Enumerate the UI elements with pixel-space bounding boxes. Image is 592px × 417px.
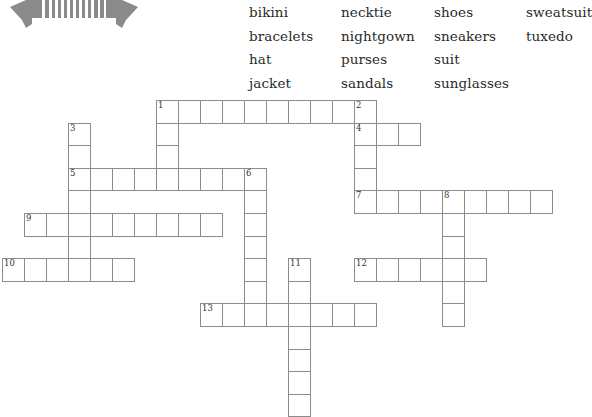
cell-letter-input[interactable]	[113, 214, 134, 236]
crossword-cell[interactable]	[288, 349, 311, 373]
cell-letter-input[interactable]	[179, 101, 200, 123]
cell-letter-input[interactable]	[245, 191, 266, 213]
cell-letter-input[interactable]	[69, 124, 90, 146]
crossword-cell[interactable]	[354, 303, 377, 327]
cell-letter-input[interactable]	[443, 282, 464, 304]
cell-letter-input[interactable]	[355, 146, 376, 168]
crossword-cell[interactable]	[222, 303, 245, 327]
cell-letter-input[interactable]	[377, 124, 398, 146]
crossword-cell[interactable]	[442, 236, 465, 260]
cell-letter-input[interactable]	[289, 304, 310, 326]
crossword-cell[interactable]	[244, 100, 267, 124]
cell-letter-input[interactable]	[223, 304, 244, 326]
crossword-cell[interactable]: 4	[354, 123, 377, 147]
cell-letter-input[interactable]	[157, 214, 178, 236]
crossword-cell[interactable]	[200, 213, 223, 237]
crossword-cell[interactable]	[156, 145, 179, 169]
cell-letter-input[interactable]	[355, 101, 376, 123]
cell-letter-input[interactable]	[223, 101, 244, 123]
crossword-cell[interactable]	[222, 100, 245, 124]
crossword-cell[interactable]	[332, 100, 355, 124]
cell-letter-input[interactable]	[421, 191, 442, 213]
crossword-cell[interactable]	[90, 213, 113, 237]
cell-letter-input[interactable]	[201, 214, 222, 236]
crossword-cell[interactable]	[24, 258, 47, 282]
crossword-cell[interactable]	[332, 303, 355, 327]
cell-letter-input[interactable]	[245, 214, 266, 236]
crossword-cell[interactable]: 5	[68, 168, 91, 192]
crossword-cell[interactable]	[310, 303, 333, 327]
crossword-cell[interactable]	[134, 213, 157, 237]
crossword-cell[interactable]	[178, 100, 201, 124]
crossword-cell[interactable]	[68, 190, 91, 214]
crossword-cell[interactable]	[68, 258, 91, 282]
cell-letter-input[interactable]	[47, 259, 68, 281]
crossword-cell[interactable]	[376, 190, 399, 214]
crossword-cell[interactable]	[508, 190, 531, 214]
crossword-cell[interactable]	[156, 123, 179, 147]
cell-letter-input[interactable]	[399, 191, 420, 213]
cell-letter-input[interactable]	[267, 101, 288, 123]
cell-letter-input[interactable]	[135, 169, 156, 191]
crossword-cell[interactable]	[134, 168, 157, 192]
crossword-cell[interactable]: 2	[354, 100, 377, 124]
cell-letter-input[interactable]	[245, 282, 266, 304]
crossword-cell[interactable]	[398, 258, 421, 282]
cell-letter-input[interactable]	[289, 282, 310, 304]
crossword-cell[interactable]	[288, 281, 311, 305]
crossword-cell[interactable]	[486, 190, 509, 214]
crossword-cell[interactable]	[266, 100, 289, 124]
crossword-cell[interactable]	[288, 371, 311, 395]
crossword-cell[interactable]	[288, 100, 311, 124]
crossword-cell[interactable]	[530, 190, 553, 214]
crossword-cell[interactable]: 7	[354, 190, 377, 214]
crossword-cell[interactable]	[244, 190, 267, 214]
crossword-cell[interactable]	[200, 168, 223, 192]
crossword-cell[interactable]	[178, 213, 201, 237]
crossword-cell[interactable]	[244, 281, 267, 305]
cell-letter-input[interactable]	[399, 259, 420, 281]
cell-letter-input[interactable]	[531, 191, 552, 213]
cell-letter-input[interactable]	[355, 169, 376, 191]
cell-letter-input[interactable]	[157, 169, 178, 191]
crossword-cell[interactable]	[90, 168, 113, 192]
cell-letter-input[interactable]	[289, 395, 310, 417]
cell-letter-input[interactable]	[443, 191, 464, 213]
crossword-cell[interactable]	[420, 190, 443, 214]
crossword-cell[interactable]	[178, 168, 201, 192]
cell-letter-input[interactable]	[69, 146, 90, 168]
crossword-cell[interactable]	[288, 303, 311, 327]
cell-letter-input[interactable]	[113, 169, 134, 191]
cell-letter-input[interactable]	[3, 259, 24, 281]
cell-letter-input[interactable]	[91, 169, 112, 191]
crossword-cell[interactable]	[442, 281, 465, 305]
crossword-cell[interactable]	[442, 303, 465, 327]
crossword-cell[interactable]: 10	[2, 258, 25, 282]
cell-letter-input[interactable]	[113, 259, 134, 281]
cell-letter-input[interactable]	[421, 259, 442, 281]
cell-letter-input[interactable]	[157, 101, 178, 123]
crossword-cell[interactable]	[156, 168, 179, 192]
cell-letter-input[interactable]	[333, 304, 354, 326]
cell-letter-input[interactable]	[201, 169, 222, 191]
crossword-cell[interactable]	[68, 145, 91, 169]
cell-letter-input[interactable]	[355, 191, 376, 213]
crossword-cell[interactable]: 3	[68, 123, 91, 147]
crossword-cell[interactable]	[200, 100, 223, 124]
crossword-cell[interactable]	[244, 258, 267, 282]
cell-letter-input[interactable]	[69, 169, 90, 191]
cell-letter-input[interactable]	[289, 327, 310, 349]
cell-letter-input[interactable]	[223, 169, 244, 191]
cell-letter-input[interactable]	[245, 304, 266, 326]
cell-letter-input[interactable]	[443, 214, 464, 236]
cell-letter-input[interactable]	[399, 124, 420, 146]
cell-letter-input[interactable]	[25, 214, 46, 236]
crossword-cell[interactable]	[420, 258, 443, 282]
cell-letter-input[interactable]	[245, 169, 266, 191]
crossword-cell[interactable]	[222, 168, 245, 192]
cell-letter-input[interactable]	[157, 124, 178, 146]
cell-letter-input[interactable]	[289, 350, 310, 372]
crossword-cell[interactable]	[398, 190, 421, 214]
cell-letter-input[interactable]	[289, 101, 310, 123]
cell-letter-input[interactable]	[201, 304, 222, 326]
